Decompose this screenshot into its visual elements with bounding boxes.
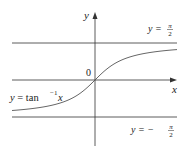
svg-text:2: 2 (169, 131, 173, 139)
svg-text:π: π (169, 123, 173, 131)
svg-text:y = −: y = − (130, 124, 154, 135)
svg-text:−1: −1 (50, 89, 58, 97)
svg-text:π: π (168, 22, 172, 30)
x-axis-arrow-icon (170, 78, 177, 83)
graph-canvas: y x 0 y = π 2 y = − π 2 y = tan −1 x (0, 0, 189, 153)
svg-text:x: x (57, 92, 63, 103)
lower-asymptote-label: y = − π 2 (130, 123, 174, 139)
x-axis-label: x (171, 83, 177, 95)
y-axis-arrow-icon (93, 12, 98, 19)
upper-asymptote-label: y = π 2 (147, 22, 173, 38)
arctan-graph: y x 0 y = π 2 y = − π 2 y = tan −1 x (0, 0, 189, 153)
origin-label: 0 (86, 67, 91, 78)
curve-label: y = tan −1 x (9, 89, 63, 103)
svg-text:y = tan: y = tan (9, 92, 39, 103)
svg-text:2: 2 (168, 30, 172, 38)
svg-text:y =: y = (147, 23, 162, 34)
y-axis-label: y (83, 9, 89, 21)
